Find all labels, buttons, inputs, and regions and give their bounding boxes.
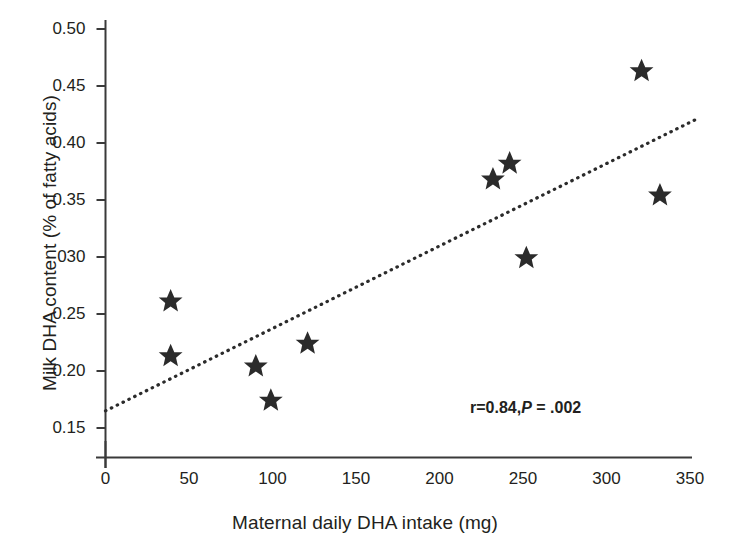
scatter-plot-figure: 0.150.200.250300.350.400.450.50 05010015… <box>0 0 730 556</box>
x-tick-label: 50 <box>159 469 219 489</box>
data-point-star <box>244 354 268 377</box>
y-axis-ticks <box>97 29 106 428</box>
data-point-star <box>648 183 672 206</box>
data-point-star <box>259 388 283 411</box>
x-tick-label: 150 <box>326 469 386 489</box>
x-tick-label: 200 <box>410 469 470 489</box>
data-point-star <box>514 246 538 269</box>
axis-lines <box>96 20 692 468</box>
x-tick-label: 100 <box>243 469 303 489</box>
correlation-annotation: r=0.84,P = .002 <box>470 399 581 417</box>
x-tick-label: 300 <box>577 469 637 489</box>
data-point-star <box>630 59 654 82</box>
trendline <box>106 119 697 411</box>
x-axis-title: Maternal daily DHA intake (mg) <box>0 512 730 534</box>
data-point-star <box>498 151 522 174</box>
x-tick-label: 0 <box>76 469 136 489</box>
p-value: = .002 <box>532 399 581 416</box>
p-symbol: P <box>521 399 532 416</box>
data-point-group <box>159 59 672 411</box>
x-tick-label: 350 <box>660 469 720 489</box>
data-point-star <box>159 289 183 312</box>
x-tick-label: 250 <box>493 469 553 489</box>
data-point-star <box>296 331 320 354</box>
correlation-r-value: r=0.84, <box>470 399 521 416</box>
data-point-star <box>159 344 183 367</box>
data-point-star <box>481 167 505 190</box>
y-axis-title: Milk DHA content (% of fatty acids) <box>39 13 61 473</box>
